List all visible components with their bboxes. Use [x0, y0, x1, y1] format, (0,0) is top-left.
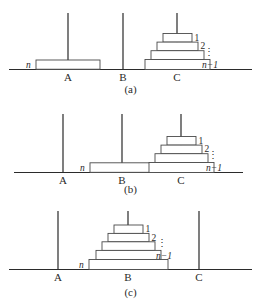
disk-label-nminus1-b: n−1 — [206, 163, 222, 173]
disk-n-on-B-c — [89, 260, 168, 270]
disk-nminus1-on-B-c — [96, 250, 161, 259]
disk-label-1-b: 1 — [199, 136, 204, 146]
caption-b: (b) — [0, 183, 261, 195]
disk-2-on-B-c — [108, 233, 149, 241]
disk-nminus1-on-C-a — [145, 60, 210, 70]
disk-label-vdots-b: ⋮ — [208, 149, 218, 160]
disk-n-on-B — [90, 163, 154, 173]
disk-mid-on-C-a — [151, 51, 204, 60]
disk-2-on-C-a — [157, 42, 198, 51]
disk-label-1-a: 1 — [195, 33, 200, 43]
disk-label-1-c: 1 — [146, 224, 151, 234]
caption-a: (a) — [0, 83, 261, 95]
hanoi-figure: n 1 2 ⋮ n−1 A B C (a) n — [0, 0, 261, 308]
peg-letter-A-c: A — [54, 271, 62, 283]
peg-letter-B-a: B — [119, 71, 126, 83]
disk-label-vdots-a: ⋮ — [204, 46, 214, 57]
peg-letter-C-c: C — [195, 271, 202, 283]
disk-1-on-B-c — [114, 225, 143, 233]
peg-letter-B-c: B — [124, 271, 131, 283]
disk-mid-on-C-b — [155, 154, 208, 163]
peg-letter-C-a: C — [173, 71, 180, 83]
disk-label-n-b: n — [80, 163, 85, 173]
disk-1-on-C-a — [163, 34, 192, 43]
disk-label-nminus1-c: n−1 — [156, 251, 172, 261]
disk-label-vdots-c: ⋮ — [157, 237, 167, 248]
peg-letter-A-a: A — [64, 71, 72, 83]
disk-label-n-a: n — [26, 60, 31, 70]
disk-1-on-C-b — [167, 137, 196, 146]
disk-label-nminus1-a: n−1 — [202, 60, 218, 70]
disk-label-n-c: n — [79, 260, 84, 270]
caption-c: (c) — [0, 286, 261, 298]
disk-label-2-c: 2 — [152, 233, 157, 243]
disk-n-on-A — [36, 60, 100, 69]
disk-mid-on-B-c — [102, 242, 155, 251]
disk-nminus1-on-C-b — [149, 163, 214, 173]
disk-2-on-C-b — [161, 145, 202, 154]
